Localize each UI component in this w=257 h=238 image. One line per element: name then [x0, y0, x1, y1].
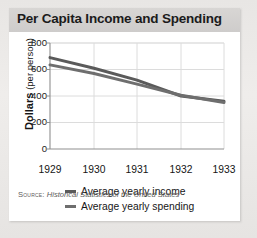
x-tick-1932: 1932: [164, 164, 198, 175]
chart-card: Per Capita Income and Spending Dollars (…: [9, 8, 240, 221]
source-prefix: Source:: [18, 190, 45, 199]
legend-swatch-icon-spending: [65, 205, 76, 208]
chart-legend: Average yearly income Average yearly spe…: [41, 184, 231, 214]
legend-label-spending: Average yearly spending: [81, 201, 194, 212]
title-band: Per Capita Income and Spending: [9, 8, 240, 32]
x-tick-1933: 1933: [207, 164, 241, 175]
source-title: Historical Statistics of the United Stat…: [47, 190, 180, 199]
x-tick-1931: 1931: [120, 164, 154, 175]
x-tick-1929: 1929: [33, 164, 67, 175]
plot-svg: [17, 36, 232, 176]
x-tick-1930: 1930: [77, 164, 111, 175]
figure-background: Per Capita Income and Spending Dollars (…: [0, 0, 257, 238]
chart-title: Per Capita Income and Spending: [17, 11, 222, 26]
source-note: Source: Historical Statistics of the Uni…: [18, 190, 179, 199]
legend-item-average-yearly-spending: Average yearly spending: [41, 199, 231, 214]
